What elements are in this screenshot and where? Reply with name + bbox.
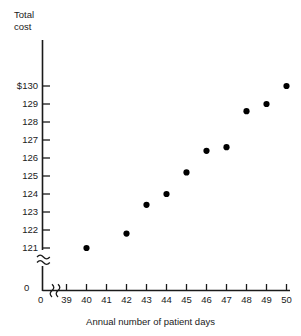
data-point [263,101,269,107]
data-point [123,231,129,237]
data-point [83,245,89,251]
x-tick-label: 50 [276,295,298,305]
data-point [203,148,209,154]
x-tick-label: 49 [256,295,278,305]
y-axis-break-icon [37,255,50,264]
y-tick-label: $130 [0,81,38,91]
y-axis-title: Total cost [14,9,34,32]
y-tick-label: 121 [0,243,38,253]
y-tick-label: 127 [0,135,38,145]
x-tick-label: 48 [236,295,258,305]
x-tick-label: 47 [216,295,238,305]
x-tick-label: 44 [156,295,178,305]
data-point [283,83,289,89]
x-tick-label: 45 [176,295,198,305]
data-point [223,144,229,150]
axes [43,40,291,291]
y-tick-label: 123 [0,207,38,217]
y-axis-ticks [43,86,51,248]
y-tick-label: 126 [0,153,38,163]
x-tick-label: 41 [96,295,118,305]
y-tick-label: 125 [0,171,38,181]
x-origin-label: 0 [38,295,43,305]
data-point [183,169,189,175]
scatter-plot [0,0,301,336]
data-point [243,108,249,114]
y-tick-label: 124 [0,189,38,199]
y-tick-label: 129 [0,99,38,109]
x-axis-ticks [67,284,287,291]
x-tick-label: 40 [76,295,98,305]
y-tick-label: 122 [0,225,38,235]
data-points [83,83,289,251]
y-tick-label: 128 [0,117,38,127]
x-tick-label: 39 [56,295,78,305]
x-tick-label: 43 [136,295,158,305]
x-axis-title: Annual number of patient days [0,316,301,328]
y-origin-label: 0 [24,283,29,293]
x-tick-label: 46 [196,295,218,305]
data-point [143,202,149,208]
x-tick-label: 42 [116,295,138,305]
data-point [163,191,169,197]
